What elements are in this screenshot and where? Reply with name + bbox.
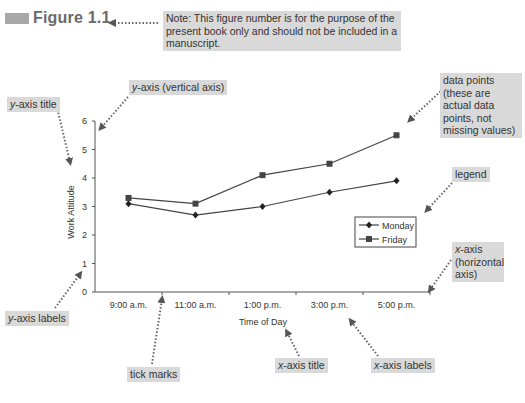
callout-y-axis-title: y-axis title	[7, 97, 60, 112]
svg-text:9:00 a.m.: 9:00 a.m.	[110, 300, 148, 310]
callout-x-axis-title: x-axis title	[275, 358, 328, 373]
svg-text:Monday: Monday	[382, 221, 415, 231]
x-axis-labels: 9:00 a.m.11:00 a.m.1:00 p.m.3:00 p.m.5:0…	[110, 300, 416, 310]
svg-text:2: 2	[82, 230, 87, 240]
callout-y-axis-labels: y-axis labels	[5, 311, 69, 326]
svg-text:3:00 p.m.: 3:00 p.m.	[311, 300, 349, 310]
svg-text:6: 6	[82, 116, 87, 126]
chart-series	[126, 132, 400, 218]
callout-x-axis-labels: x-axis labels	[371, 358, 435, 373]
svg-text:11:00 a.m.: 11:00 a.m.	[175, 300, 217, 310]
callout-legend: legend	[452, 167, 490, 182]
chart-legend: MondayFriday	[355, 217, 416, 247]
callout-arrows	[55, 23, 452, 364]
line-chart: 0123456 9:00 a.m.11:00 a.m.1:00 p.m.3:00…	[0, 0, 525, 403]
svg-text:5: 5	[82, 145, 87, 155]
callout-x-axis-horizontal: x-axis (horizontal axis)	[452, 242, 504, 282]
svg-text:Friday: Friday	[382, 235, 408, 245]
callout-y-axis-vertical: y-axis (vertical axis)	[129, 80, 227, 95]
callout-data-points: data points (these are actual data point…	[440, 73, 522, 138]
svg-text:3: 3	[82, 202, 87, 212]
svg-text:1:00 p.m.: 1:00 p.m.	[244, 300, 282, 310]
x-axis-title: Time of Day	[239, 317, 288, 327]
svg-text:0: 0	[82, 287, 87, 297]
y-axis-labels: 0123456	[82, 116, 87, 297]
callout-tick-marks: tick marks	[127, 367, 180, 382]
svg-text:4: 4	[82, 173, 87, 183]
y-axis-title: Work Attitude	[66, 185, 76, 238]
svg-text:1: 1	[82, 259, 87, 269]
svg-text:5:00 p.m.: 5:00 p.m.	[378, 300, 416, 310]
